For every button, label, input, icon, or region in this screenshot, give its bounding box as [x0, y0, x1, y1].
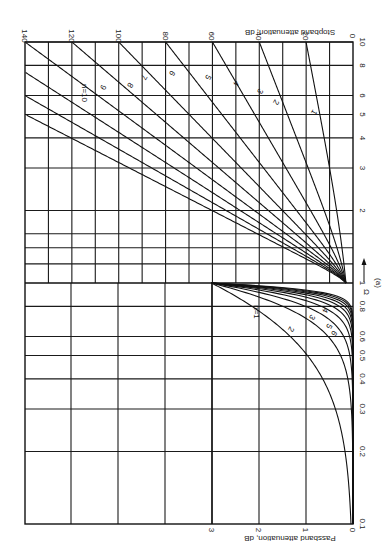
passband-curve-n5	[212, 283, 353, 524]
passband-curve-n6	[212, 283, 353, 524]
omega-tick-label: 0.8	[358, 301, 367, 313]
stopband-tick-label: 0	[348, 34, 357, 39]
stopband-curve-n7	[26, 43, 346, 283]
passband-tick-label: 0	[348, 528, 357, 533]
stopband-tick-label: 120	[67, 29, 76, 43]
stopband-curve-label: 6	[167, 69, 177, 78]
omega-tick-label: 1	[358, 281, 367, 286]
passband-tick-label: 3	[207, 528, 216, 533]
omega-tick-label: 3	[358, 166, 367, 171]
stopband-curve-label: 9	[98, 83, 108, 92]
omega-tick-label: 4	[358, 136, 367, 141]
passband-curve-n4	[212, 283, 353, 524]
omega-tick-label: 6	[358, 93, 367, 98]
stopband-tick-label: 140	[20, 29, 29, 43]
omega-tick-label: 10	[358, 38, 367, 47]
passband-curve-n7	[212, 283, 353, 524]
passband-axis-title: Passband attenuation, dB	[244, 534, 336, 543]
stopband-tick-label: 80	[161, 32, 170, 41]
stopband-curve-n3	[212, 42, 346, 283]
passband-curve-n1	[212, 283, 351, 524]
stopband-curve-label: 3	[255, 87, 265, 96]
passband-curve-label: n=1	[252, 305, 261, 319]
omega-tick-label: 0.4	[358, 373, 367, 385]
omega-axis-label: Ω	[362, 289, 371, 295]
omega-tick-label: 2	[358, 208, 367, 213]
passband-curve-n2	[212, 283, 353, 524]
passband-curve-label: 3	[307, 313, 317, 322]
passband-curve-n8	[212, 283, 353, 524]
passband-curve-n9	[212, 283, 353, 524]
stopband-curve-n1	[306, 42, 346, 283]
omega-tick-label: 0.5	[358, 350, 367, 362]
omega-tick-label: 0.2	[358, 446, 367, 458]
passband-curve-n10	[212, 283, 353, 524]
stopband-tick-label: 60	[207, 32, 216, 41]
panel-label: (a)	[374, 278, 383, 288]
omega-tick-label: 0.1	[358, 518, 367, 530]
passband-tick-label: 1	[301, 528, 310, 533]
stopband-curve-n2	[259, 42, 346, 283]
passband-curve-label: 2	[286, 325, 296, 334]
stopband-curve-label: 5	[203, 73, 213, 82]
stopband-curve-label: 2	[271, 98, 281, 107]
stopband-curve-label: 1	[309, 108, 319, 117]
omega-tick-label: 8	[358, 63, 367, 68]
stopband-axis-title: Stopband attenuation, dB	[245, 28, 335, 37]
omega-tick-label: 0.6	[358, 331, 367, 343]
passband-tick-label: 2	[254, 528, 263, 533]
butterworth-attenuation-chart: 0.10.20.30.40.50.60.81234568100204060801…	[0, 0, 390, 558]
stopband-curve-label: 7	[139, 73, 149, 82]
omega-arrow-icon	[362, 258, 367, 282]
omega-tick-label: 5	[358, 112, 367, 117]
stopband-curve-n5	[119, 42, 346, 283]
stopband-curve-label: n=10	[80, 84, 89, 103]
omega-tick-label: 0.3	[358, 403, 367, 415]
passband-curve-n3	[212, 283, 353, 524]
stopband-tick-label: 100	[114, 29, 123, 43]
stopband-curve-n4	[166, 42, 346, 283]
